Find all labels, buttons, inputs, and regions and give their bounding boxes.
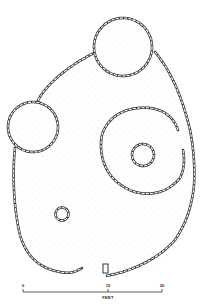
scale-unit-label: FEET <box>102 295 113 300</box>
top-circular-room <box>94 18 152 76</box>
scale-tick-15: 15 <box>106 283 110 288</box>
site-plan-drawing <box>0 0 209 307</box>
scale-tick-30: 30 <box>160 283 164 288</box>
scale-bar <box>23 289 162 292</box>
scale-tick-0: 0 <box>22 283 24 288</box>
left-circular-room <box>8 102 58 152</box>
